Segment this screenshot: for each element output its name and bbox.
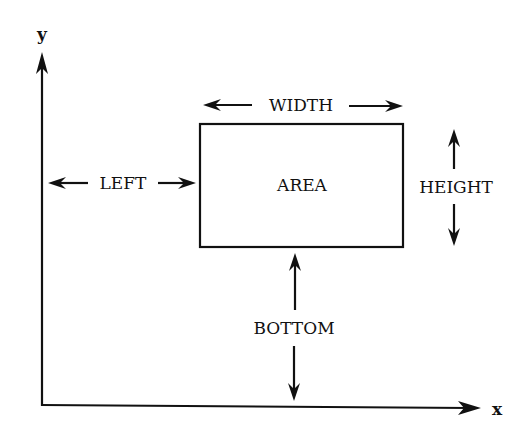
height-label: HEIGHT <box>419 177 493 197</box>
area-box: AREA <box>200 124 403 247</box>
y-axis-label: y <box>36 24 48 44</box>
width-dimension: WIDTH <box>203 95 403 115</box>
area-label: AREA <box>276 175 327 195</box>
x-axis: x <box>41 399 503 419</box>
y-axis: y <box>36 24 48 406</box>
plot-layout-diagram: y x AREA WIDTH LEFT HEIGHT BOTT <box>0 0 532 444</box>
height-dimension: HEIGHT <box>419 129 493 246</box>
bottom-dimension: BOTTOM <box>253 253 334 401</box>
x-axis-line <box>41 405 470 408</box>
left-dimension: LEFT <box>48 173 196 193</box>
bottom-label: BOTTOM <box>253 318 334 338</box>
width-label: WIDTH <box>269 95 333 115</box>
x-axis-label: x <box>492 399 503 419</box>
left-label: LEFT <box>100 173 147 193</box>
